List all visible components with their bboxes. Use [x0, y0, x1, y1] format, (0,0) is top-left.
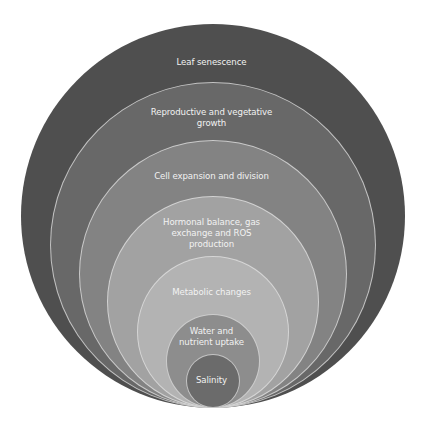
label-text: Leaf senescence: [177, 57, 247, 68]
label-text: Cell expansion and division: [154, 171, 269, 182]
label-text-line3: production: [189, 239, 234, 250]
label-text-line1: Water and: [190, 326, 233, 337]
nested-circle-diagram: Leaf senescence Reproductive and vegetat…: [0, 0, 423, 424]
label-text-line1: Reproductive and vegetative: [151, 107, 273, 118]
label-salinity: Salinity: [0, 375, 423, 386]
label-text: Salinity: [196, 375, 227, 386]
label-leaf-senescence: Leaf senescence: [0, 57, 423, 68]
label-cell-expansion: Cell expansion and division: [0, 171, 423, 182]
label-text-line2: growth: [197, 118, 226, 129]
label-text-line2: exchange and ROS: [172, 228, 252, 239]
label-metabolic-changes: Metabolic changes: [0, 287, 423, 298]
label-hormonal-balance: Hormonal balance, gas exchange and ROS p…: [0, 217, 423, 250]
label-text: Metabolic changes: [172, 287, 251, 298]
label-text-line2: nutrient uptake: [179, 337, 244, 348]
label-reproductive-growth: Reproductive and vegetative growth: [0, 107, 423, 129]
label-text-line1: Hormonal balance, gas: [163, 217, 260, 228]
label-water-nutrient-uptake: Water and nutrient uptake: [0, 326, 423, 348]
